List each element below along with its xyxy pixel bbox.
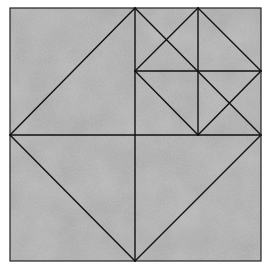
dissection-diagram: [0, 0, 267, 268]
